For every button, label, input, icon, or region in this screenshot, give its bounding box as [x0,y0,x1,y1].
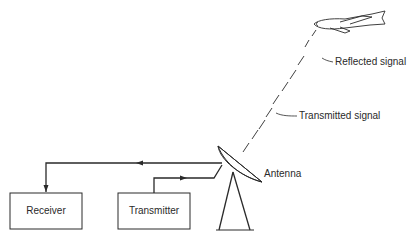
antenna-label: Antenna [264,168,301,179]
reflected-leader [322,58,333,62]
transmitter-label: Transmitter [118,205,190,216]
receiver-label: Receiver [10,205,82,216]
arrow-left-icon [136,161,143,166]
arrow-down-icon [44,185,49,192]
arrow-right-icon [180,176,187,181]
transmitted-leader [276,113,297,116]
transmitted-signal-label: Transmitted signal [299,110,380,121]
reflected-signal-label: Reflected signal [335,56,406,67]
transmitter-feed-line [154,165,222,193]
aircraft-icon [314,11,385,33]
antenna-dish-icon [216,146,262,230]
signal-path [243,30,316,152]
